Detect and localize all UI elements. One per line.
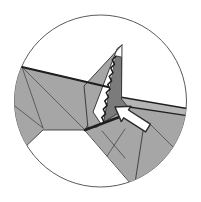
spike-right-edge (122, 45, 123, 99)
origami-diagram (0, 0, 201, 202)
origami-step-detail-view (0, 0, 201, 202)
